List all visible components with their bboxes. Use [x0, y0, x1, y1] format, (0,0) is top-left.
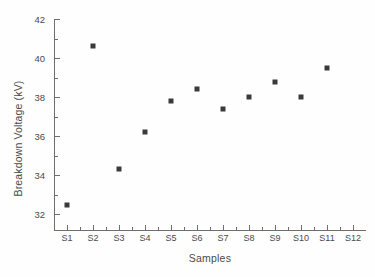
x-axis-title: Samples [54, 252, 366, 264]
x-tick-minor [262, 227, 263, 230]
x-tick-major [197, 225, 198, 230]
x-tick-major [93, 225, 94, 230]
y-tick-label: 34 [5, 170, 45, 181]
y-tick-label: 42 [5, 14, 45, 25]
x-tick-minor [158, 227, 159, 230]
x-tick-minor [340, 227, 341, 230]
x-axis-line [54, 230, 366, 231]
y-tick-minor [55, 78, 58, 79]
y-tick-major [55, 136, 60, 137]
y-tick-label: 36 [5, 131, 45, 142]
x-tick-minor [314, 227, 315, 230]
y-tick-minor [55, 117, 58, 118]
y-tick-major [55, 97, 60, 98]
x-tick-minor [54, 227, 55, 230]
x-tick-major [353, 225, 354, 230]
y-tick-label: 38 [5, 92, 45, 103]
x-tick-minor [288, 227, 289, 230]
data-point [117, 167, 122, 172]
x-tick-major [301, 225, 302, 230]
y-tick-major [55, 214, 60, 215]
y-tick-label: 32 [5, 209, 45, 220]
x-tick-minor [236, 227, 237, 230]
plot-area: 323436384042 S1S2S3S4S5S6S7S8S9S10S11S12 [54, 19, 366, 231]
x-tick-minor [184, 227, 185, 230]
y-tick-minor [55, 39, 58, 40]
x-tick-minor [132, 227, 133, 230]
y-tick-major [55, 58, 60, 59]
scatter-chart-figure: Breakdown Voltage (kV) 323436384042 S1S2… [0, 0, 375, 277]
x-tick-major [249, 225, 250, 230]
x-tick-major [171, 225, 172, 230]
x-tick-minor [106, 227, 107, 230]
data-point [143, 130, 148, 135]
data-point [169, 99, 174, 104]
data-point [195, 87, 200, 92]
y-tick-major [55, 19, 60, 20]
x-tick-minor [210, 227, 211, 230]
y-tick-minor [55, 156, 58, 157]
x-tick-major [275, 225, 276, 230]
data-point [65, 202, 70, 207]
x-tick-major [223, 225, 224, 230]
data-point [299, 95, 304, 100]
data-point [325, 65, 330, 70]
data-point [273, 79, 278, 84]
y-axis-line [54, 19, 55, 231]
y-tick-major [55, 175, 60, 176]
x-tick-major [145, 225, 146, 230]
data-point [247, 95, 252, 100]
y-tick-minor [55, 195, 58, 196]
x-tick-major [119, 225, 120, 230]
y-tick-label: 40 [5, 53, 45, 64]
x-tick-major [67, 225, 68, 230]
data-point [91, 44, 96, 49]
x-tick-label: S12 [333, 233, 373, 243]
x-tick-minor [80, 227, 81, 230]
x-tick-major [327, 225, 328, 230]
data-point [221, 106, 226, 111]
